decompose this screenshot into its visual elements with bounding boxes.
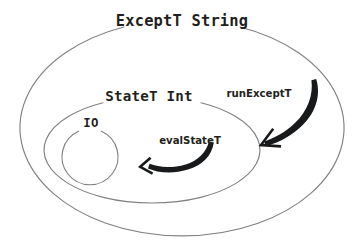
eval-statet-arrow-body: [148, 141, 214, 172]
ring-middle-statet: [44, 103, 260, 203]
ring-label-io: IO: [83, 115, 98, 130]
arrow-label-run-exceptt: runExceptT: [226, 88, 291, 99]
arrow-label-eval-statet: evalStateT: [159, 135, 221, 146]
monad-transformer-diagram: ExceptT String StateT Int IO runExceptT …: [0, 0, 361, 242]
ring-label-exceptt: ExceptT String: [116, 12, 249, 30]
ring-label-statet: StateT Int: [105, 88, 192, 104]
diagram-canvas: ExceptT String StateT Int IO runExceptT …: [0, 0, 361, 242]
ring-inner-io: [62, 131, 118, 185]
ring-outer-exceptt: [20, 27, 344, 236]
